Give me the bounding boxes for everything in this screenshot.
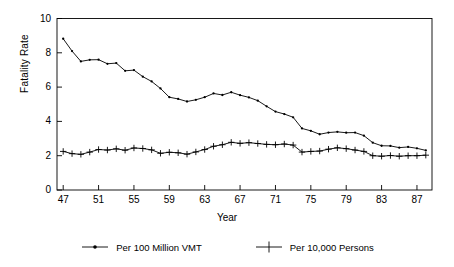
data-point-marker	[327, 131, 329, 133]
data-point-marker	[345, 132, 347, 134]
x-tick-label: 87	[402, 195, 432, 205]
data-point-marker	[89, 59, 91, 61]
x-tick-label: 67	[225, 195, 255, 205]
data-point-marker	[115, 62, 117, 64]
x-tick-label: 47	[48, 195, 78, 205]
data-point-marker	[177, 98, 179, 100]
data-point-marker	[343, 145, 349, 151]
data-point-marker	[95, 146, 101, 152]
data-point-marker	[106, 63, 108, 65]
data-point-marker	[246, 139, 252, 145]
data-point-marker	[308, 148, 314, 154]
chart-legend: Per 100 Million VMTPer 10,000 Persons	[0, 240, 454, 254]
data-point-marker	[274, 110, 276, 112]
data-point-marker	[310, 130, 312, 132]
data-point-marker	[363, 134, 365, 136]
data-point-marker	[301, 127, 303, 129]
legend-dot-marker-icon	[80, 240, 110, 254]
data-point-marker	[316, 148, 322, 154]
data-point-marker	[325, 146, 331, 152]
data-point-marker	[184, 151, 190, 157]
data-point-marker	[263, 141, 269, 147]
data-point-marker	[283, 113, 285, 115]
x-tick-label: 83	[367, 195, 397, 205]
data-point-marker	[336, 131, 338, 133]
x-tick-label: 59	[154, 195, 184, 205]
data-point-marker	[60, 148, 66, 154]
data-point-marker	[186, 100, 188, 102]
data-point-marker	[230, 91, 232, 93]
legend-entry: Per 10,000 Persons	[254, 240, 374, 254]
data-point-marker	[372, 142, 374, 144]
y-tick-label: 2	[29, 151, 51, 161]
data-point-marker	[148, 147, 154, 153]
data-point-marker	[361, 148, 367, 154]
data-point-marker	[104, 147, 110, 153]
data-point-marker	[407, 146, 409, 148]
data-point-marker	[78, 151, 84, 157]
data-point-marker	[389, 145, 391, 147]
x-tick-label: 79	[331, 195, 361, 205]
data-point-marker	[193, 149, 199, 155]
data-point-marker	[140, 145, 146, 151]
data-point-marker	[354, 131, 356, 133]
legend-dot	[93, 245, 97, 249]
data-point-marker	[131, 145, 137, 151]
data-point-marker	[202, 146, 208, 152]
data-point-marker	[414, 153, 420, 159]
data-point-marker	[80, 60, 82, 62]
data-point-marker	[212, 92, 214, 94]
x-axis-title: Year	[0, 212, 454, 223]
data-point-marker	[175, 150, 181, 156]
data-point-marker	[97, 59, 99, 61]
data-point-marker	[319, 133, 321, 135]
data-point-marker	[159, 87, 161, 89]
legend-label: Per 100 Million VMT	[116, 242, 202, 253]
data-point-marker	[157, 150, 163, 156]
fatality-rate-chart: Fatality Rate Year 0246810 4751555963677…	[0, 0, 454, 267]
data-point-marker	[281, 141, 287, 147]
legend-entry: Per 100 Million VMT	[80, 240, 202, 254]
data-point-marker	[168, 96, 170, 98]
data-point-marker	[265, 105, 267, 107]
data-point-marker	[387, 152, 393, 158]
data-point-marker	[416, 147, 418, 149]
data-point-marker	[166, 149, 172, 155]
data-point-marker	[370, 153, 376, 159]
x-tick-label: 63	[190, 195, 220, 205]
data-point-marker	[221, 94, 223, 96]
data-point-marker	[142, 75, 144, 77]
data-point-marker	[405, 153, 411, 159]
data-point-marker	[210, 143, 216, 149]
data-point-marker	[71, 50, 73, 52]
data-point-marker	[87, 149, 93, 155]
data-point-marker	[122, 147, 128, 153]
data-point-marker	[257, 100, 259, 102]
data-point-marker	[398, 146, 400, 148]
y-axis-title: Fatality Rate	[19, 14, 30, 114]
data-point-marker	[425, 149, 427, 151]
data-point-marker	[380, 145, 382, 147]
data-point-marker	[69, 150, 75, 156]
plot-frame	[57, 19, 432, 191]
data-point-marker	[423, 152, 429, 158]
x-tick-label: 71	[260, 195, 290, 205]
data-point-marker	[396, 153, 402, 159]
data-point-marker	[378, 153, 384, 159]
data-point-marker	[239, 94, 241, 96]
data-point-marker	[204, 96, 206, 98]
data-point-marker	[113, 146, 119, 152]
legend-label: Per 10,000 Persons	[290, 242, 374, 253]
data-point-marker	[248, 96, 250, 98]
data-point-marker	[334, 145, 340, 151]
y-tick-label: 10	[29, 14, 51, 24]
data-point-marker	[150, 80, 152, 82]
y-tick-label: 4	[29, 116, 51, 126]
data-point-marker	[228, 139, 234, 145]
y-tick-label: 8	[29, 48, 51, 58]
x-tick-label: 75	[296, 195, 326, 205]
data-point-marker	[195, 99, 197, 101]
data-point-marker	[219, 142, 225, 148]
data-point-marker	[124, 70, 126, 72]
legend-plus-marker-icon	[254, 240, 284, 254]
